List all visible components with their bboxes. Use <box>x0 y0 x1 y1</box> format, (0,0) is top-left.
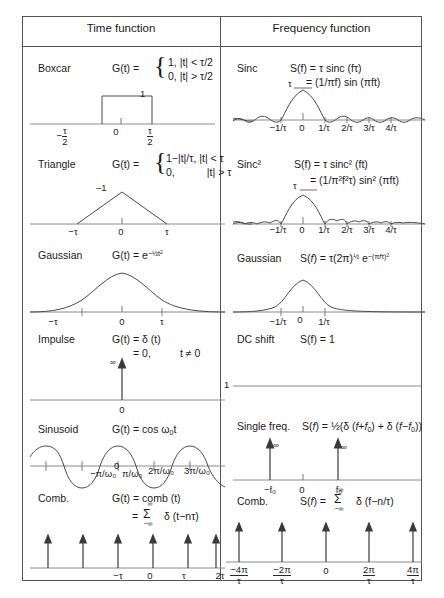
triangle-piece-1: 1−|t|/τ, |t| < τ <box>166 152 224 164</box>
sinc-tick-5: 4/τ <box>380 122 402 133</box>
comb-freq-line-1-lhs: S(f) = <box>300 495 326 507</box>
boxcar-peak-label: 1 <box>140 88 145 99</box>
gaussian-freq-tick-0: −1/τ <box>265 316 291 327</box>
sinc-tick-2: 1/τ <box>313 122 335 133</box>
comb-freq-tick-2: 0 <box>318 565 334 576</box>
row-label-gaussian-freq: Gaussian <box>237 252 281 264</box>
comb-time-tick-2: τ <box>177 570 191 581</box>
plot-dc-shift <box>233 384 421 390</box>
sinc2-tick-0: −1/τ <box>265 224 291 235</box>
comb-freq-sigma-icon: Σ <box>334 492 341 506</box>
comb-freq-tick-4: 4πτ <box>399 565 427 586</box>
row-label-impulse: Impulse <box>38 333 75 345</box>
boxcar-piece-1: 1, |t| < τ/2 <box>168 56 213 68</box>
sinc-tick-4: 3/τ <box>358 122 380 133</box>
boxcar-tick-1: 0 <box>109 126 123 137</box>
sinusoid-tick-1: 0 <box>114 460 119 471</box>
row-label-sinc-squared: Sinc² <box>237 158 261 170</box>
row-label-gaussian-time: Gaussian <box>38 249 82 261</box>
row-label-single-freq: Single freq. <box>237 420 290 432</box>
plot-comb-freq <box>226 518 422 568</box>
triangle-lhs: G(t) = <box>112 158 139 170</box>
row-label-dc-shift: DC shift <box>237 333 274 345</box>
triangle-tick-1: 0 <box>114 226 128 237</box>
comb-freq-sum-lower: −∞ <box>330 505 348 512</box>
boxcar-lhs: G(t) = <box>112 62 139 74</box>
figure-root: Time function Frequency function Boxcar … <box>0 0 444 598</box>
sinc2-tick-5: 4/τ <box>380 224 402 235</box>
gaussian-time-tick-0: −τ <box>43 316 63 327</box>
row-label-sinc: Sinc <box>237 62 257 74</box>
column-header-frequency: Frequency function <box>221 22 422 34</box>
comb-freq-tick-3: 2πτ <box>355 565 383 586</box>
comb-time-tick-1: 0 <box>143 570 157 581</box>
comb-time-sigma-icon: Σ <box>143 507 150 521</box>
gaussian-freq-tick-2: 1/τ <box>313 316 335 327</box>
impulse-tick-0: 0 <box>115 404 129 415</box>
column-header-time: Time function <box>22 22 220 34</box>
comb-freq-tick-1-den: τ <box>273 575 290 586</box>
comb-freq-tick-0-num: −4π <box>230 565 247 575</box>
sinc-tick-1: 0 <box>296 122 308 133</box>
single-freq-tick-0: −f₀ <box>259 484 281 495</box>
single-freq-infinity-right: ∞ <box>341 443 347 452</box>
single-freq-formula: S(f) = ½(δ (f+f0) + δ (f−f0)) <box>302 420 422 434</box>
impulse-line-1: G(t) = δ (t) <box>112 333 161 345</box>
comb-time-line-2-body: δ (t−nτ) <box>164 510 199 522</box>
gaussian-freq-formula: S(f) = τ(2π)½ e−(πfτ)2 <box>300 252 389 264</box>
plot-impulse <box>30 358 225 406</box>
comb-freq-tick-4-num: 4π <box>407 565 419 575</box>
row-label-comb-freq: Comb. <box>237 495 268 507</box>
boxcar-tick-2: τ2 <box>140 126 160 147</box>
comb-freq-tick-0: −4πτ <box>224 565 254 586</box>
sinc2-tick-4: 3/τ <box>358 224 380 235</box>
sinusoid-tick-2: π/ω₀ <box>122 468 143 479</box>
triangle-piece-2: 0, |t| > τ <box>166 166 231 178</box>
plot-comb-time <box>30 528 225 574</box>
comb-time-sum-lower: −∞ <box>139 520 157 527</box>
boxcar-tick-0: −τ2 <box>48 126 76 147</box>
comb-freq-line-1-body: δ (f−n/τ) <box>356 495 394 507</box>
sinc2-line-2: = (1/π²f²τ) sin² (πft) <box>310 174 399 186</box>
row-label-sinusoid: Sinusoid <box>38 423 78 435</box>
triangle-peak-label: –1 <box>96 182 107 193</box>
sinc-tick-0: −1/τ <box>265 122 291 133</box>
comb-freq-tick-1: −2πτ <box>267 565 297 586</box>
single-freq-tick-1: 0 <box>296 484 308 495</box>
row-label-boxcar: Boxcar <box>38 62 71 74</box>
triangle-tick-0: −τ <box>63 226 83 237</box>
row-label-triangle: Triangle <box>38 158 76 170</box>
plot-single-freq <box>233 436 421 486</box>
sinusoid-tick-0: −π/ω₀ <box>90 468 116 479</box>
comb-time-tick-0: −τ <box>108 570 128 581</box>
sinusoid-tick-3: 2π/ω₀ <box>148 465 174 476</box>
comb-freq-tick-3-num: 2π <box>363 565 375 575</box>
triangle-tick-2: τ <box>160 226 174 237</box>
brace-icon: { <box>154 53 166 79</box>
gaussian-time-tick-1: 0 <box>115 316 129 327</box>
gaussian-time-tick-2: τ <box>155 316 169 327</box>
comb-freq-tick-0-den: τ <box>230 575 247 586</box>
gaussian-freq-tick-1: 0 <box>294 314 306 325</box>
comb-time-sum-upper: ∞ <box>143 500 157 507</box>
sinusoid-formula: G(t) = cos ω0t <box>112 423 176 437</box>
boxcar-piece-2: 0, |t| > τ/2 <box>168 70 213 82</box>
dc-shift-level-label: 1 <box>224 379 229 390</box>
sinusoid-tick-4: 3π/ω₀ <box>184 465 210 476</box>
plot-gaussian-time <box>30 262 225 320</box>
sinc-tick-3: 2/τ <box>336 122 358 133</box>
comb-freq-tick-1-num: −2π <box>273 565 290 575</box>
sinc2-tick-2: 1/τ <box>313 224 335 235</box>
gaussian-time-formula: G(t) = e−½t2 <box>112 249 163 261</box>
comb-time-line-2-eq: = <box>132 510 138 522</box>
sinc2-tick-1: 0 <box>296 224 308 235</box>
sinc2-line-1: S(f) = τ sinc² (ft) <box>294 158 368 170</box>
single-freq-infinity-left: ∞ <box>273 441 279 450</box>
comb-freq-tick-4-den: τ <box>407 575 419 586</box>
row-label-comb-time: Comb. <box>38 492 69 504</box>
sinc-line-1: S(f) = τ sinc (fτ) <box>290 62 362 74</box>
header-rule <box>22 46 422 47</box>
brace-icon: { <box>154 149 166 175</box>
dc-shift-formula: S(f) = 1 <box>300 333 335 345</box>
sinc2-tick-3: 2/τ <box>336 224 358 235</box>
